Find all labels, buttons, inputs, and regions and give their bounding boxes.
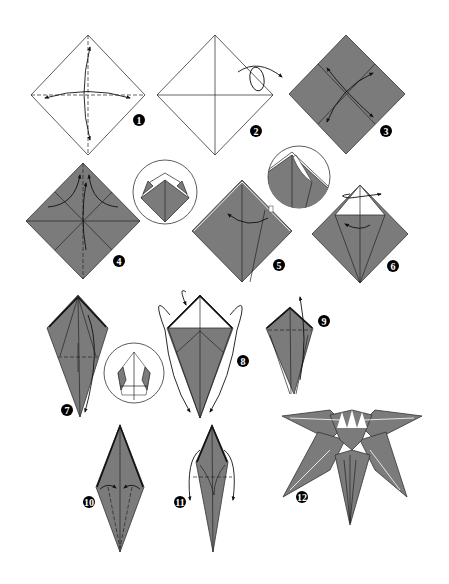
step-12: 12 [282, 410, 422, 525]
step-5-inset [268, 146, 330, 210]
svg-text:12: 12 [297, 492, 307, 503]
svg-text:3: 3 [384, 126, 389, 137]
svg-text:6: 6 [391, 261, 396, 272]
step-7-inset [104, 343, 164, 403]
svg-text:7: 7 [65, 405, 70, 416]
step-8: 8 [159, 291, 249, 418]
step-9: 9 [266, 297, 330, 394]
svg-text:8: 8 [241, 356, 246, 367]
step-4-inset [133, 160, 197, 224]
step-2: 2 [157, 35, 282, 155]
step-10: 10 [83, 425, 144, 552]
step-6: 6 [312, 185, 408, 283]
svg-text:11: 11 [175, 497, 184, 508]
svg-text:9: 9 [322, 316, 327, 327]
svg-text:10: 10 [84, 497, 94, 508]
step-4: 4 [26, 163, 140, 279]
step-7: 7 [47, 295, 108, 417]
step-1: 1 [31, 35, 145, 155]
svg-text:4: 4 [117, 256, 122, 267]
svg-text:2: 2 [254, 126, 259, 137]
step-11: 11 [174, 425, 234, 552]
svg-text:5: 5 [277, 260, 282, 271]
svg-text:1: 1 [137, 115, 142, 126]
origami-diagram: 1 2 3 4 [0, 0, 449, 584]
step-3: 3 [289, 35, 405, 154]
